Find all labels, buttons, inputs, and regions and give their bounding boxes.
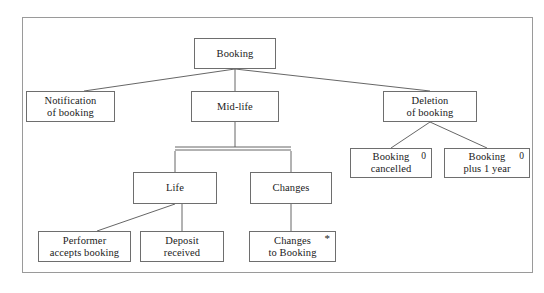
node-booking-cancelled[interactable]: Bookingcancelled0	[350, 148, 432, 178]
node-deletion-of-booking[interactable]: Deletionof booking	[383, 91, 477, 122]
multiplicity-marker: *	[324, 233, 330, 243]
node-label-line: Deletion	[412, 95, 449, 107]
node-booking-plus-1-year[interactable]: Bookingplus 1 year0	[444, 148, 530, 178]
node-label-line: Changes	[273, 182, 310, 194]
node-label-line: Changes	[274, 235, 311, 247]
node-label-line: Performer	[63, 235, 106, 247]
node-label-line: to Booking	[269, 247, 317, 259]
node-label-line: received	[164, 247, 200, 259]
node-mid-life[interactable]: Mid-life	[191, 91, 279, 122]
node-label-line: of booking	[407, 107, 454, 119]
node-life[interactable]: Life	[133, 172, 217, 204]
node-label-line: accepts booking	[50, 247, 119, 259]
node-label-line: Deposit	[165, 235, 198, 247]
node-label-line: Booking	[217, 48, 254, 60]
node-changes-to-booking[interactable]: Changesto Booking*	[249, 231, 336, 262]
node-label-line: cancelled	[371, 163, 412, 175]
node-booking[interactable]: Booking	[194, 38, 276, 69]
node-label-line: Booking	[373, 151, 410, 163]
node-label-line: Life	[166, 182, 184, 194]
node-label-line: Notification	[45, 95, 97, 107]
diagram-canvas: BookingNotificationof bookingMid-lifeDel…	[0, 0, 544, 293]
node-changes[interactable]: Changes	[250, 172, 332, 204]
node-label-line: Mid-life	[217, 101, 253, 113]
multiplicity-marker: 0	[421, 151, 426, 161]
node-deposit-received[interactable]: Depositreceived	[140, 231, 224, 262]
node-notification-of-booking[interactable]: Notificationof booking	[26, 91, 115, 122]
node-performer-accepts-booking[interactable]: Performeraccepts booking	[38, 231, 131, 262]
multiplicity-marker: 0	[519, 151, 524, 161]
node-label-line: of booking	[47, 107, 94, 119]
node-label-line: Booking	[469, 151, 506, 163]
figure-caption	[22, 281, 322, 291]
node-label-line: plus 1 year	[463, 163, 510, 175]
